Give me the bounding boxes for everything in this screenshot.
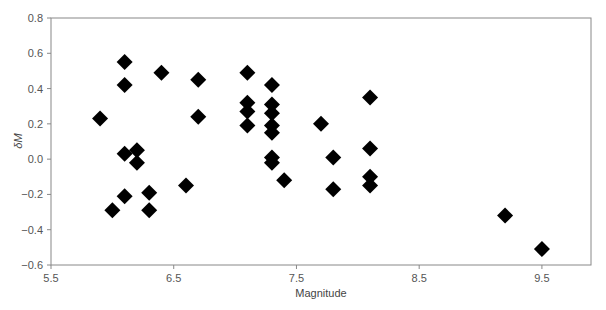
x-tick-label: 7.5: [289, 272, 304, 284]
y-tick-label: 0.4: [28, 83, 43, 95]
y-tick-label: 0.6: [28, 47, 43, 59]
x-axis-label: Magnitude: [295, 287, 346, 299]
y-tick-label: 0.0: [28, 153, 43, 165]
x-tick-label: 9.5: [534, 272, 549, 284]
y-tick-label: 0.2: [28, 118, 43, 130]
x-axis-ticks: 5.56.57.58.59.5: [43, 265, 549, 284]
y-tick-label: 0.8: [28, 12, 43, 24]
x-tick-label: 5.5: [43, 272, 58, 284]
y-axis-label: δM: [12, 133, 24, 149]
y-tick-label: −0.4: [21, 224, 43, 236]
scatter-chart: −0.6−0.4−0.20.00.20.40.60.8 5.56.57.58.5…: [0, 0, 606, 310]
x-tick-label: 6.5: [166, 272, 181, 284]
y-axis-ticks: −0.6−0.4−0.20.00.20.40.60.8: [21, 12, 51, 271]
y-tick-label: −0.6: [21, 259, 43, 271]
x-tick-label: 8.5: [412, 272, 427, 284]
y-tick-label: −0.2: [21, 188, 43, 200]
plot-area: [51, 18, 591, 265]
